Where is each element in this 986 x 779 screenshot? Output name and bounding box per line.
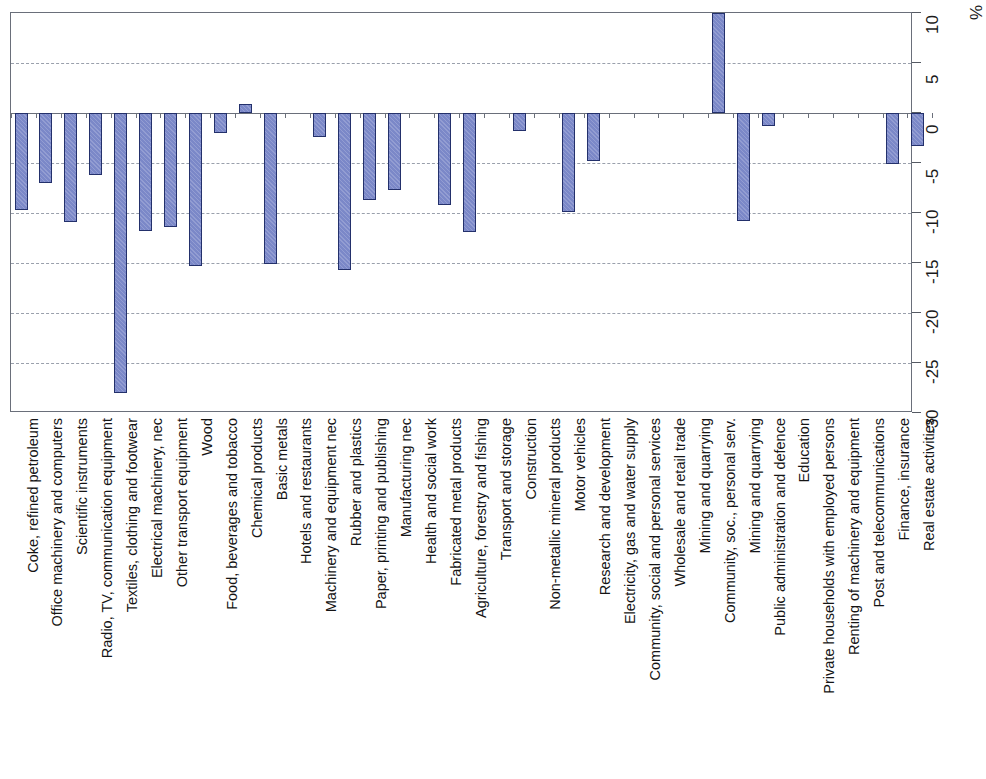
- y-axis-tick-label: -5: [924, 144, 941, 184]
- category-label: Community, soc., personal serv.: [723, 418, 738, 623]
- bar: [438, 113, 451, 205]
- y-axis-tick-mark: [912, 62, 921, 63]
- bar: [712, 13, 725, 113]
- category-tick: [758, 113, 759, 118]
- y-axis-tick-label: -20: [924, 294, 941, 334]
- category-label: Other transport equipment: [175, 418, 190, 587]
- y-axis-tick-mark: [912, 312, 921, 313]
- gridline: [11, 363, 911, 364]
- category-label: Hotels and restaurants: [299, 418, 314, 564]
- y-axis-tick-label: 10: [924, 0, 941, 34]
- category-tick: [11, 113, 12, 118]
- category-label: Basic metals: [275, 418, 290, 500]
- category-tick: [111, 113, 112, 118]
- bar: [762, 113, 775, 126]
- category-tick: [559, 113, 560, 118]
- y-axis-tick-mark: [912, 212, 921, 213]
- category-tick: [708, 113, 709, 118]
- y-axis-tick-label: -10: [924, 194, 941, 234]
- bar: [239, 104, 252, 113]
- category-label: Coke, refined petroleum: [26, 418, 41, 573]
- bar: [139, 113, 152, 231]
- category-tick: [385, 113, 386, 118]
- category-tick: [185, 113, 186, 118]
- bar: [64, 113, 77, 222]
- bar: [313, 113, 326, 137]
- category-tick: [634, 113, 635, 118]
- category-label: Finance, insurance: [897, 418, 912, 541]
- category-tick: [360, 113, 361, 118]
- category-label: Private households with employed persons: [822, 418, 837, 694]
- category-tick: [783, 113, 784, 118]
- bar: [513, 113, 526, 131]
- category-tick: [210, 113, 211, 118]
- category-tick: [310, 113, 311, 118]
- y-axis-tick-mark: [912, 12, 921, 13]
- y-axis-tick-label: 5: [924, 44, 941, 84]
- category-axis-labels: Coke, refined petroleumOffice machinery …: [0, 418, 981, 779]
- category-label: Scientific instruments: [75, 418, 90, 555]
- category-tick: [584, 113, 585, 118]
- category-label: Electrical machinery, nec: [150, 418, 165, 578]
- category-label: Mining and quarrying: [748, 418, 763, 553]
- category-label: Food, beverages and tobacco: [225, 418, 240, 610]
- category-tick: [484, 113, 485, 118]
- category-tick: [36, 113, 37, 118]
- category-label: Education: [797, 418, 812, 483]
- category-tick: [733, 113, 734, 118]
- category-label: Agriculture, forestry and fishing: [474, 418, 489, 618]
- category-tick: [160, 113, 161, 118]
- category-tick: [883, 113, 884, 118]
- category-tick: [808, 113, 809, 118]
- category-label: Rubber and plastics: [349, 418, 364, 546]
- bar: [264, 113, 277, 264]
- category-label: Fabricated metal products: [449, 418, 464, 586]
- category-label: Real estate activities: [922, 418, 937, 551]
- bar: [388, 113, 401, 190]
- category-label: Manufacturing nec: [399, 418, 414, 537]
- category-label: Renting of machinery and equipment: [847, 418, 862, 655]
- category-tick: [434, 113, 435, 118]
- plot-area: [10, 12, 912, 412]
- bar: [164, 113, 177, 227]
- category-tick: [509, 113, 510, 118]
- y-axis-tick-mark: [912, 262, 921, 263]
- category-tick: [61, 113, 62, 118]
- category-tick: [409, 113, 410, 118]
- y-axis-unit-label: %: [968, 5, 985, 20]
- category-label: Wood: [200, 418, 215, 456]
- category-tick: [907, 113, 908, 118]
- category-tick: [459, 113, 460, 118]
- bar: [562, 113, 575, 212]
- category-tick: [683, 113, 684, 118]
- category-tick: [858, 113, 859, 118]
- category-label: Mining and quarrying: [698, 418, 713, 553]
- bar: [114, 113, 127, 393]
- category-label: Wholesale and retail trade: [673, 418, 688, 586]
- bar: [89, 113, 102, 175]
- y-axis-tick-label: -15: [924, 244, 941, 284]
- category-label: Radio, TV, communication equipment: [100, 418, 115, 658]
- category-label: Research and development: [598, 418, 613, 595]
- bar: [338, 113, 351, 270]
- bar: [463, 113, 476, 232]
- category-tick: [833, 113, 834, 118]
- category-label: Post and telecommunications: [872, 418, 887, 607]
- category-label: Motor vehicles: [573, 418, 588, 511]
- category-tick: [235, 113, 236, 118]
- bar: [587, 113, 600, 161]
- category-label: Textiles, clothing and footwear: [125, 418, 140, 612]
- y-axis-tick-mark: [912, 162, 921, 163]
- category-tick: [534, 113, 535, 118]
- category-tick: [260, 113, 261, 118]
- y-axis-tick-mark: [912, 412, 921, 413]
- bar: [363, 113, 376, 200]
- bar: [737, 113, 750, 221]
- y-axis: 1050-5-10-15-20-25-30 %: [912, 12, 981, 412]
- bar: [214, 113, 227, 133]
- category-tick: [609, 113, 610, 118]
- gridline: [11, 313, 911, 314]
- category-tick: [285, 113, 286, 118]
- category-label: Chemical products: [250, 418, 265, 538]
- category-label: Health and social work: [424, 418, 439, 564]
